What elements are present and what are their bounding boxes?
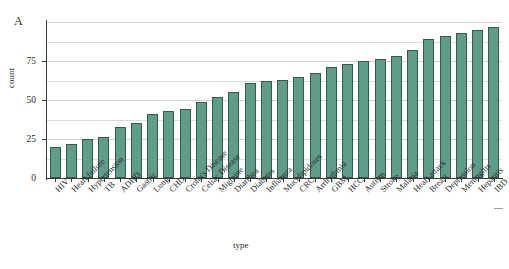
- bar: [472, 30, 483, 178]
- bar: [391, 56, 402, 178]
- x-tick-mark: [71, 178, 72, 182]
- x-tick-mark: [55, 178, 56, 182]
- y-tick-label: 75: [10, 56, 36, 66]
- x-axis-tick-labels: HIVHeart failureHypertensionTBADHDGastri…: [47, 183, 502, 263]
- x-axis-title: type: [233, 240, 249, 250]
- bar: [180, 109, 191, 178]
- y-tick-label: 50: [10, 95, 36, 105]
- y-tick-label: 0: [10, 173, 36, 183]
- bar: [66, 144, 77, 178]
- bar: [358, 61, 369, 178]
- panel-label: A: [14, 14, 23, 29]
- y-tick-label: 25: [10, 134, 36, 144]
- y-axis-title: count: [6, 68, 16, 88]
- bar: [440, 36, 451, 178]
- bar: [261, 81, 272, 178]
- x-tick-mark: [120, 178, 121, 182]
- bar: [293, 77, 304, 178]
- bar: [147, 114, 158, 178]
- corner-mark: [494, 208, 503, 209]
- bar: [456, 33, 467, 178]
- bar-chart-panel: A count 0255075 HIVHeart failureHyperten…: [0, 0, 509, 269]
- bar: [50, 147, 61, 178]
- y-tick-mark: [42, 139, 46, 140]
- bar: [326, 67, 337, 178]
- bar: [245, 83, 256, 178]
- bar: [423, 39, 434, 178]
- plot-area: [47, 22, 502, 178]
- bar: [163, 111, 174, 178]
- y-tick-mark: [42, 100, 46, 101]
- bar-series: [47, 22, 502, 178]
- bar: [407, 50, 418, 178]
- y-tick-mark: [42, 61, 46, 62]
- bar: [488, 27, 499, 178]
- bar: [375, 59, 386, 178]
